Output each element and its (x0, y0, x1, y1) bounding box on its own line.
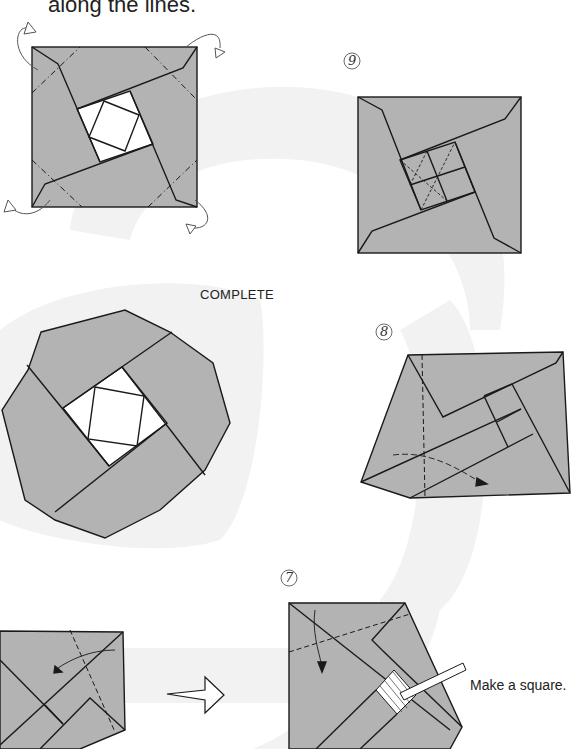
origami-diagram-canvas (0, 0, 580, 749)
instruction-text: along the lines. (48, 0, 196, 18)
complete-label: COMPLETE (200, 287, 274, 302)
step-10-diagram (4, 22, 225, 234)
step-8-number: 8 (380, 324, 388, 339)
make-square-callout: Make a square. (470, 677, 567, 693)
step-6-diagram (0, 630, 125, 749)
step-9-diagram (344, 53, 521, 253)
step-9-number: 9 (348, 53, 356, 68)
step-7-number: 7 (285, 570, 293, 585)
